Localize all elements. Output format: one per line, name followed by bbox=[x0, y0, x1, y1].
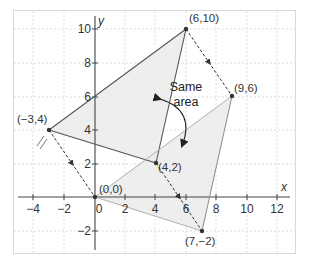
x-tick-label: 2 bbox=[122, 202, 129, 216]
y-tick-label: 2 bbox=[84, 157, 91, 171]
point-label-7-neg2: (7,−2) bbox=[185, 235, 216, 247]
x-tick-labels: −4 −2 0 2 4 6 8 10 12 bbox=[26, 202, 284, 216]
y-tick-label: 8 bbox=[84, 56, 91, 70]
annotation-same: Same bbox=[170, 80, 203, 94]
coordinate-plane: −4 −2 0 2 4 6 8 10 12 10 8 6 4 2 −2 y x … bbox=[0, 0, 313, 270]
x-tick-label: 6 bbox=[183, 202, 190, 216]
y-axis-label: y bbox=[97, 14, 105, 28]
point-label-0-0: (0,0) bbox=[99, 183, 123, 195]
x-tick-label: 10 bbox=[240, 202, 254, 216]
x-tick-label: 0 bbox=[96, 202, 103, 216]
x-tick-label: −4 bbox=[26, 202, 40, 216]
x-tick-label: 12 bbox=[270, 202, 284, 216]
point-label-6-10: (6,10) bbox=[189, 12, 219, 24]
y-tick-label: 10 bbox=[78, 22, 92, 36]
point-label-9-6: (9,6) bbox=[234, 82, 258, 94]
diagram-stage: −4 −2 0 2 4 6 8 10 12 10 8 6 4 2 −2 y x … bbox=[0, 0, 313, 270]
x-tick-label: 8 bbox=[213, 202, 220, 216]
y-tick-label: 6 bbox=[84, 90, 91, 104]
y-tick-label: −2 bbox=[77, 224, 91, 238]
x-tick-label: 4 bbox=[152, 202, 159, 216]
point-label-neg3-4: (−3,4) bbox=[17, 113, 48, 125]
x-axis-label: x bbox=[280, 180, 288, 194]
x-tick-label: −2 bbox=[57, 202, 71, 216]
y-tick-label: 4 bbox=[84, 123, 91, 137]
point-label-4-2: (4,2) bbox=[158, 161, 182, 173]
annotation-area: area bbox=[173, 95, 198, 109]
